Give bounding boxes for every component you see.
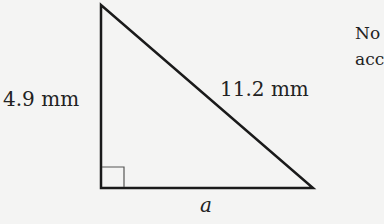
side-text-line1: No: [355, 25, 380, 42]
vertical-side-label: 4.9 mm: [3, 89, 79, 109]
right-angle-marker: [102, 167, 124, 187]
hypotenuse-label: 11.2 mm: [220, 79, 309, 99]
side-text-line2: acc: [355, 51, 384, 68]
base-label: a: [200, 195, 212, 215]
